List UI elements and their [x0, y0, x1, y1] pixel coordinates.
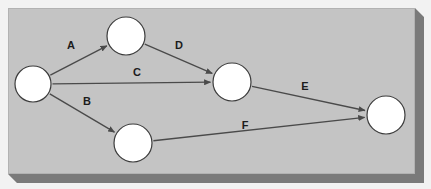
edge-label-b: B [83, 95, 91, 107]
graph-node-n4[interactable] [213, 63, 251, 101]
edge-label-d: D [175, 39, 183, 51]
graph-node-n2[interactable] [107, 17, 145, 55]
edge-label-f: F [242, 119, 249, 131]
graph-node-n5[interactable] [367, 96, 405, 134]
edge-label-a: A [67, 39, 75, 51]
edge-label-c: C [133, 66, 141, 78]
network-diagram: ABCDEF [0, 0, 431, 189]
edge-label-e: E [301, 80, 308, 92]
panel-face [8, 8, 415, 174]
graph-node-n3[interactable] [114, 124, 152, 162]
panel-3d [8, 8, 424, 183]
diagram-canvas: ABCDEF [0, 0, 431, 189]
graph-node-n1[interactable] [15, 66, 51, 102]
